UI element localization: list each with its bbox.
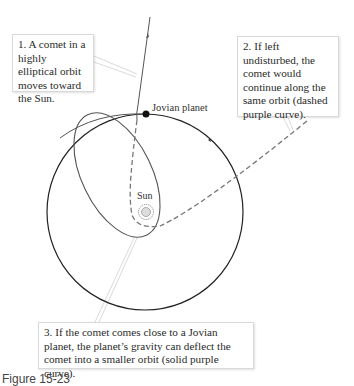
jovian-planet-label: Jovian planet	[152, 102, 208, 113]
planet-dot-icon	[143, 111, 150, 118]
callout-2: 2. If left undisturbed, the comet would …	[237, 36, 339, 117]
sun-icon	[139, 205, 154, 220]
callout-3: 3. If the comet comes close to a Jovian …	[38, 322, 254, 369]
original-comet-orbit-dashed	[130, 120, 307, 227]
new-comet-orbit	[56, 99, 178, 250]
incoming-comet-path	[137, 17, 150, 120]
deflection-arc	[60, 114, 146, 138]
callout-1: 1. A comet in a highly elliptical orbit …	[12, 34, 94, 92]
figure-caption: Figure 15-23	[2, 372, 70, 386]
sun-label: Sun	[137, 190, 153, 201]
